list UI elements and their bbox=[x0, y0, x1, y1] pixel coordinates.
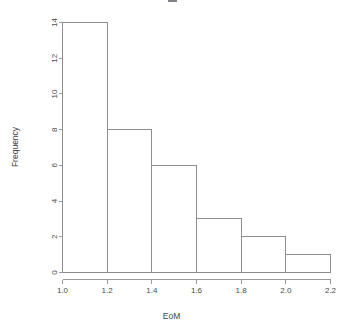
x-axis-ticks bbox=[63, 280, 331, 284]
y-axis-title: Frequency bbox=[10, 126, 20, 167]
x-tick-label: 2.2 bbox=[325, 286, 337, 295]
histogram-bar bbox=[286, 255, 331, 273]
x-tick-label: 1.2 bbox=[102, 286, 114, 295]
histogram-chart: 02468101214 1.01.21.41.61.82.02.2 EoM Fr… bbox=[0, 0, 343, 331]
cropped-title-remnant bbox=[168, 0, 177, 2]
histogram-bar bbox=[107, 130, 152, 273]
histogram-bar bbox=[63, 23, 108, 273]
x-axis-group: 1.01.21.41.61.82.02.2 bbox=[57, 280, 337, 295]
y-tick-label: 2 bbox=[50, 234, 59, 239]
histogram-bar bbox=[197, 219, 242, 273]
y-tick-label: 14 bbox=[50, 18, 59, 27]
histogram-bar bbox=[152, 165, 197, 272]
x-axis-title: EoM bbox=[163, 311, 180, 321]
y-axis-ticks bbox=[59, 23, 63, 273]
x-tick-label: 1.4 bbox=[146, 286, 158, 295]
x-tick-label: 1.6 bbox=[191, 286, 203, 295]
y-axis-ticklabels: 02468101214 bbox=[50, 18, 59, 275]
y-tick-label: 10 bbox=[50, 89, 59, 98]
x-axis-ticklabels: 1.01.21.41.61.82.02.2 bbox=[57, 286, 337, 295]
y-tick-label: 8 bbox=[50, 127, 59, 132]
y-tick-label: 12 bbox=[50, 53, 59, 62]
plot-canvas: 02468101214 1.01.21.41.61.82.02.2 EoM Fr… bbox=[0, 0, 343, 331]
y-tick-label: 4 bbox=[50, 198, 59, 203]
y-tick-label: 0 bbox=[50, 270, 59, 275]
y-axis-group: 02468101214 bbox=[50, 18, 63, 275]
x-tick-label: 1.8 bbox=[236, 286, 248, 295]
bars-group bbox=[63, 23, 331, 273]
x-tick-label: 2.0 bbox=[280, 286, 292, 295]
y-tick-label: 6 bbox=[50, 163, 59, 168]
histogram-bar bbox=[241, 237, 286, 273]
x-tick-label: 1.0 bbox=[57, 286, 69, 295]
